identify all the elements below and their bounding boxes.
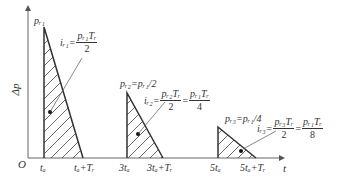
x-axis-label: t — [283, 163, 286, 174]
tick-ta-plus-tr: tₐ+Tᵣ — [74, 163, 94, 173]
tick-3ta-plus-tr: 3tₐ+Tᵣ — [147, 163, 172, 173]
tick-3ta: 3tₐ — [119, 163, 130, 173]
origin-label: O — [18, 159, 26, 170]
y-axis-label: Δp — [10, 84, 21, 96]
pulse-1-peak-label: pᵣ₁ — [34, 16, 45, 26]
pulse-3-centroid — [239, 149, 243, 153]
tick-ta: tₐ — [40, 163, 46, 173]
pulse-2-peak-label: pᵣ₂=pᵣ₁/2 — [120, 79, 156, 89]
pulse-3-impulse-formula: iᵣ₃= pᵣ₃Tᵣ2 = pᵣ₁Tᵣ8 — [257, 117, 324, 140]
pulse-1-impulse-formula: iᵣ₁= pᵣ₁Tᵣ2 — [60, 31, 98, 54]
tick-5ta: 5tₐ — [210, 163, 221, 173]
pulse-3-peak-label: pᵣ₃=pᵣ₁/4 — [225, 114, 261, 124]
tick-5ta-plus-tr: 5tₐ+Tᵣ — [240, 163, 265, 173]
pulse-2-impulse-formula: iᵣ₂= pᵣ₂Tᵣ2 = pᵣ₁Tᵣ4 — [144, 89, 211, 112]
